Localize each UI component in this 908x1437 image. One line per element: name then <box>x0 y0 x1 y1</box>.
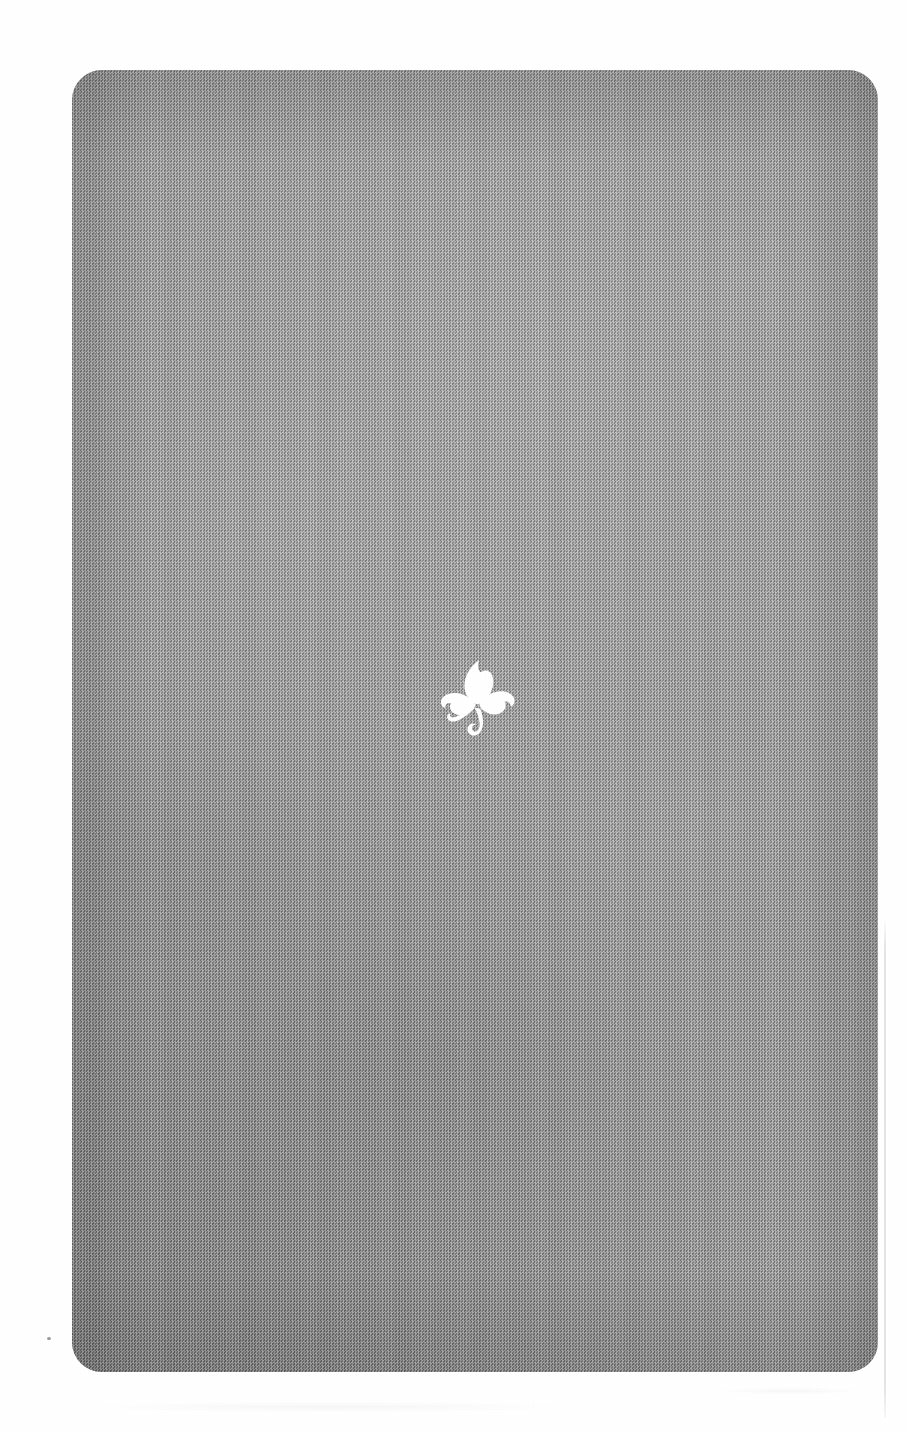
page-canvas: Plate with white shamrock emblem centere… <box>0 0 908 1437</box>
scan-edge-line <box>884 918 886 1418</box>
scan-speck <box>47 1337 51 1340</box>
shamrock-emblem <box>436 647 518 743</box>
margin-smudge-bottom <box>20 1400 640 1414</box>
shamrock-icon-paths <box>441 660 515 735</box>
margin-smudge-bottom-right <box>700 1386 880 1396</box>
